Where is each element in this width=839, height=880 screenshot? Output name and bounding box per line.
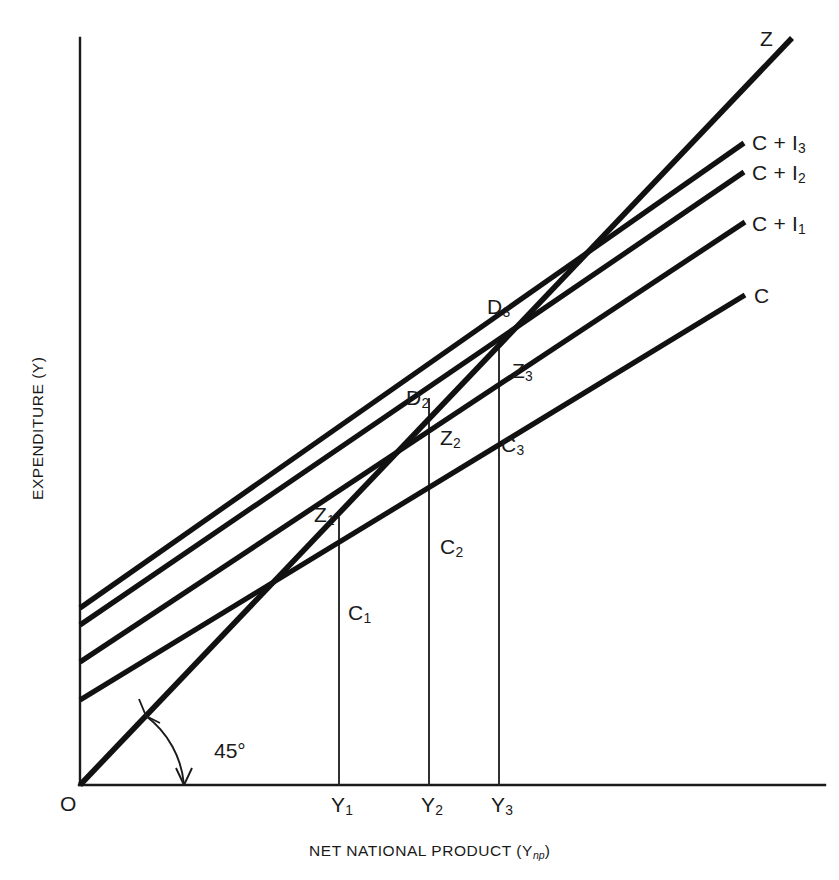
- point-label-c2: C2: [440, 536, 463, 560]
- x-axis-title: NET NATIONAL PRODUCT (Ynp): [309, 843, 550, 860]
- diagram-canvas: [0, 0, 839, 880]
- point-label-z1: Z1: [314, 504, 335, 528]
- angle-label-45-degrees: 45°: [214, 739, 246, 763]
- subscript-1: 1: [798, 221, 806, 237]
- origin-label: O: [60, 792, 76, 816]
- axes-group: [79, 38, 825, 785]
- curve-label-z: Z: [760, 28, 773, 49]
- curve-label-c-plus-i3: C + I3: [752, 132, 806, 156]
- point-label-z3: Z3: [512, 360, 533, 384]
- curve-z-45-degree: [80, 38, 792, 785]
- curve-label-c-plus-i1: C + I1: [752, 213, 806, 237]
- x-tick-label-y2: Y2: [421, 794, 443, 818]
- x-axis-title-subscript: np: [533, 849, 545, 861]
- point-label-d3: D3: [487, 296, 510, 320]
- point-label-c1: C1: [348, 602, 371, 626]
- keynesian-cross-figure: Z C + I3 C + I2 C + I1 C D3 Z3 D2 Z2 C3 …: [0, 0, 839, 880]
- curve-label-c-plus-i2: C + I2: [752, 162, 806, 186]
- subscript-3: 3: [798, 140, 806, 156]
- point-label-z2: Z2: [440, 427, 461, 451]
- curve-c-plus-i1: [80, 222, 745, 662]
- x-tick-label-y1: Y1: [331, 794, 353, 818]
- point-label-d2: D2: [406, 387, 429, 411]
- y-axis-title: EXPENDITURE (Y): [30, 357, 46, 500]
- point-label-c3: C3: [501, 434, 524, 458]
- curve-c-plus-i3: [80, 143, 744, 608]
- curve-c: [80, 295, 745, 700]
- x-tick-label-y3: Y3: [491, 794, 513, 818]
- curve-label-c: C: [754, 285, 769, 306]
- subscript-2: 2: [798, 170, 806, 186]
